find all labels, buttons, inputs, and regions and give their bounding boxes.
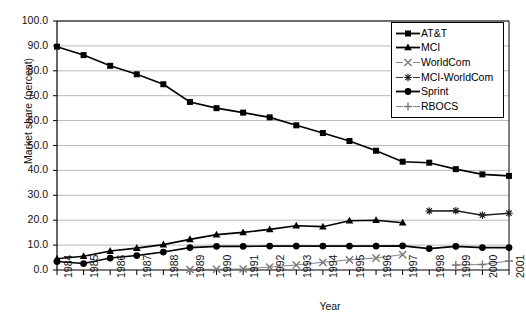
x-tick-label: 1986 xyxy=(115,255,127,278)
y-tick-label: 60.0 xyxy=(8,114,48,126)
legend-label: MCI xyxy=(421,42,440,53)
y-tick-label: 40.0 xyxy=(8,163,48,175)
y-tick-label: 10.0 xyxy=(8,238,48,250)
data-point-marker xyxy=(405,30,411,36)
data-point-marker xyxy=(506,173,512,179)
data-point-marker xyxy=(479,211,487,219)
data-point-marker xyxy=(214,105,220,111)
data-point-marker xyxy=(452,207,460,215)
data-point-marker xyxy=(240,110,246,116)
legend-item[interactable]: WorldCom xyxy=(395,55,499,70)
data-point-marker xyxy=(453,166,459,172)
data-point-marker xyxy=(240,243,247,250)
legend-item[interactable]: RBOCS xyxy=(395,99,499,114)
data-point-marker xyxy=(452,261,460,269)
data-point-marker xyxy=(405,88,412,95)
x-tick-label: 1995 xyxy=(354,255,366,278)
data-point-marker xyxy=(293,122,299,128)
x-tick-label: 1990 xyxy=(221,255,233,278)
data-point-marker xyxy=(54,258,61,265)
data-point-marker xyxy=(107,63,113,69)
x-tick-label: 1996 xyxy=(381,255,393,278)
legend-item[interactable]: AT&T xyxy=(395,26,499,41)
legend-marker-asterisk-icon xyxy=(395,71,421,84)
data-point-marker xyxy=(107,255,114,262)
x-tick-label: 1984 xyxy=(62,255,74,278)
legend-marker-triangle-icon xyxy=(395,41,421,54)
x-tick-label: 1997 xyxy=(407,255,419,278)
x-tick-label: 1992 xyxy=(274,255,286,278)
legend-label: MCI-WorldCom xyxy=(421,72,493,83)
x-tick-label: 1998 xyxy=(434,255,446,278)
data-point-marker xyxy=(54,44,60,50)
data-point-marker xyxy=(133,252,140,259)
x-tick-label: 1989 xyxy=(194,255,206,278)
y-tick-label: 30.0 xyxy=(8,188,48,200)
y-tick-label: 90.0 xyxy=(8,39,48,51)
legend-label: RBOCS xyxy=(421,101,458,112)
data-point-marker xyxy=(373,243,380,250)
legend-item[interactable]: MCI xyxy=(395,41,499,56)
data-point-marker xyxy=(506,244,513,251)
legend-marker-square-icon xyxy=(395,27,421,40)
data-point-marker xyxy=(80,260,87,267)
x-axis-title-text: Year xyxy=(319,300,340,312)
y-tick-label: 100.0 xyxy=(8,14,48,26)
x-tick-label: 1988 xyxy=(168,255,180,278)
legend-marker-plus-icon xyxy=(395,100,421,113)
data-point-marker xyxy=(400,159,406,165)
x-tick-label: 1987 xyxy=(141,255,153,278)
data-point-marker xyxy=(452,243,459,250)
x-tick-label: 1999 xyxy=(460,255,472,278)
legend-item[interactable]: MCI-WorldCom xyxy=(395,70,499,85)
y-tick-label: 80.0 xyxy=(8,64,48,76)
data-point-marker xyxy=(187,99,193,105)
x-tick-label: 1985 xyxy=(88,255,100,278)
legend: AT&TMCIWorldComMCI-WorldComSprintRBOCS xyxy=(391,22,504,118)
y-tick-label: 50.0 xyxy=(8,139,48,151)
data-point-marker xyxy=(160,249,167,256)
data-point-marker xyxy=(320,130,326,136)
x-tick-label: 2001 xyxy=(514,255,526,278)
legend-label: WorldCom xyxy=(421,57,470,68)
data-point-marker xyxy=(346,138,352,144)
data-point-marker xyxy=(346,243,353,250)
data-point-marker xyxy=(505,257,513,265)
data-point-marker xyxy=(478,261,486,269)
data-point-marker xyxy=(404,102,412,110)
data-point-marker xyxy=(319,243,326,250)
data-point-marker xyxy=(404,73,412,81)
data-point-marker xyxy=(213,243,220,250)
legend-label: Sprint xyxy=(421,86,448,97)
data-point-marker xyxy=(479,244,486,251)
y-tick-label: 20.0 xyxy=(8,213,48,225)
series-line xyxy=(429,211,509,215)
data-point-marker xyxy=(404,59,411,66)
data-point-marker xyxy=(134,71,140,77)
data-point-marker xyxy=(426,160,432,166)
legend-marker-circle-icon xyxy=(395,85,421,98)
data-point-marker xyxy=(187,244,194,251)
y-tick-label: 70.0 xyxy=(8,89,48,101)
data-point-marker xyxy=(266,243,273,250)
data-point-marker xyxy=(479,171,485,177)
data-point-marker xyxy=(160,81,166,87)
x-tick-label: 1993 xyxy=(301,255,313,278)
y-tick-label: 0.0 xyxy=(8,263,48,275)
x-tick-label: 2000 xyxy=(487,255,499,278)
legend-item[interactable]: Sprint xyxy=(395,84,499,99)
data-point-marker xyxy=(399,242,406,249)
data-point-marker xyxy=(373,148,379,154)
x-tick-label: 1994 xyxy=(327,255,339,278)
x-tick-label: 1991 xyxy=(248,255,260,278)
data-point-marker xyxy=(426,245,433,252)
data-point-marker xyxy=(425,207,433,215)
legend-label: AT&T xyxy=(421,28,447,39)
legend-marker-x-icon xyxy=(395,56,421,69)
data-point-marker xyxy=(267,114,273,120)
data-point-marker xyxy=(293,243,300,250)
data-point-marker xyxy=(505,209,513,217)
data-point-marker xyxy=(81,52,87,58)
x-axis-title: Year xyxy=(0,300,524,312)
